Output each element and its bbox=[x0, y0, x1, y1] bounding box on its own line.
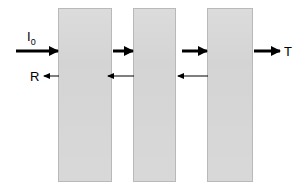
arrow-head bbox=[43, 73, 50, 79]
arrow-head bbox=[177, 73, 184, 79]
arrow-head bbox=[124, 46, 134, 56]
incident-label-subscript: 0 bbox=[31, 37, 36, 47]
transmitted-intensity-label: T bbox=[284, 45, 292, 58]
arrow-head bbox=[198, 46, 208, 56]
reflected-intensity-label: R bbox=[30, 70, 39, 83]
physics-diagram: I0 R T bbox=[0, 0, 302, 189]
incident-intensity-label: I0 bbox=[27, 30, 36, 47]
layer-slab-2 bbox=[133, 8, 176, 182]
layer-slab-3 bbox=[207, 8, 253, 182]
arrow-head bbox=[107, 73, 114, 79]
arrow-head bbox=[271, 46, 281, 56]
arrow-head bbox=[49, 46, 59, 56]
layer-slab-1 bbox=[58, 8, 112, 182]
